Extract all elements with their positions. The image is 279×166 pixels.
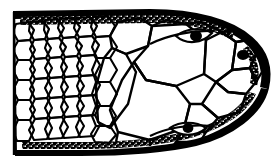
nostril	[237, 50, 249, 60]
eye-lower-pupil	[183, 123, 194, 133]
head-drawing-svg: Dorsal view of reptile head scalation bl…	[0, 0, 279, 166]
reptile-head-scalation-figure: Dorsal view of reptile head scalation bl…	[0, 0, 279, 166]
